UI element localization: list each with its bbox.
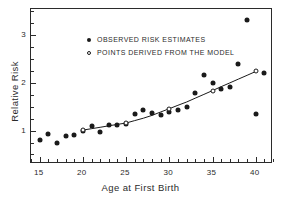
plot-area: OBSERVED RISK ESTIMATES POINTS DERIVED F…	[30, 8, 272, 163]
data-point-model	[80, 128, 85, 133]
data-point-observed	[46, 132, 51, 137]
x-tick-minor	[161, 159, 162, 162]
x-tick-minor	[135, 159, 136, 162]
y-tick-minor	[31, 154, 34, 155]
data-point-model	[253, 69, 258, 74]
model-fit-curve-path	[83, 72, 256, 131]
x-tick-minor	[109, 159, 110, 162]
x-tick-label: 40	[250, 168, 260, 177]
data-point-observed	[245, 17, 250, 22]
x-tick-major	[213, 157, 214, 162]
data-point-observed	[98, 130, 103, 135]
x-tick-minor	[221, 159, 222, 162]
data-point-observed	[141, 107, 146, 112]
x-tick-minor	[100, 159, 101, 162]
x-tick-label: 30	[164, 168, 174, 177]
x-tick-minor	[48, 159, 49, 162]
data-point-observed	[63, 133, 68, 138]
data-point-observed	[236, 61, 241, 66]
y-tick-minor	[31, 71, 34, 72]
x-tick-minor	[230, 159, 231, 162]
data-point-observed	[89, 124, 94, 129]
y-tick-major	[31, 35, 36, 36]
x-axis-title: Age at First Birth	[0, 182, 281, 193]
x-tick-minor	[273, 159, 274, 162]
data-point-model	[210, 88, 215, 93]
x-tick-minor	[66, 159, 67, 162]
y-axis-title: Relative Risk	[9, 52, 20, 132]
x-tick-minor	[247, 159, 248, 162]
x-tick-minor	[195, 159, 196, 162]
legend-item-observed: OBSERVED RISK ESTIMATES	[87, 34, 234, 45]
data-point-observed	[158, 112, 163, 117]
y-tick-major	[31, 131, 36, 132]
x-tick-minor	[152, 159, 153, 162]
y-tick-minor	[31, 107, 34, 108]
x-tick-major	[126, 157, 127, 162]
data-point-observed	[253, 112, 258, 117]
x-tick-minor	[187, 159, 188, 162]
y-tick-minor	[31, 11, 34, 12]
y-tick-minor	[31, 95, 34, 96]
data-point-observed	[72, 133, 77, 138]
y-tick-major	[31, 83, 36, 84]
x-tick-label: 20	[77, 168, 87, 177]
x-tick-major	[169, 157, 170, 162]
x-tick-minor	[178, 159, 179, 162]
legend-label-observed: OBSERVED RISK ESTIMATES	[97, 36, 206, 43]
data-point-model	[124, 120, 129, 125]
y-tick-minor	[31, 119, 34, 120]
legend-label-model: POINTS DERIVED FROM THE MODEL	[97, 49, 234, 56]
y-tick-minor	[31, 59, 34, 60]
data-point-model	[167, 106, 172, 111]
x-tick-minor	[74, 159, 75, 162]
legend: OBSERVED RISK ESTIMATES POINTS DERIVED F…	[87, 34, 234, 60]
open-circle-icon	[87, 51, 97, 55]
y-tick-label: 3	[14, 30, 26, 39]
x-tick-minor	[204, 159, 205, 162]
data-point-observed	[184, 104, 189, 109]
data-point-observed	[37, 138, 42, 143]
x-tick-major	[83, 157, 84, 162]
x-tick-major	[40, 157, 41, 162]
data-point-observed	[227, 85, 232, 90]
x-tick-minor	[143, 159, 144, 162]
data-point-observed	[210, 80, 215, 85]
data-point-observed	[201, 73, 206, 78]
x-tick-label: 25	[120, 168, 130, 177]
x-tick-label: 15	[34, 168, 44, 177]
y-tick-minor	[31, 143, 34, 144]
data-point-observed	[132, 112, 137, 117]
x-tick-minor	[264, 159, 265, 162]
data-point-observed	[262, 71, 267, 76]
x-tick-minor	[92, 159, 93, 162]
x-tick-major	[256, 157, 257, 162]
y-tick-minor	[31, 23, 34, 24]
data-point-observed	[150, 111, 155, 116]
data-point-observed	[219, 87, 224, 92]
data-point-observed	[193, 90, 198, 95]
data-point-observed	[175, 108, 180, 113]
x-tick-minor	[117, 159, 118, 162]
filled-circle-icon	[87, 38, 97, 42]
figure: OBSERVED RISK ESTIMATES POINTS DERIVED F…	[0, 0, 281, 202]
x-tick-minor	[57, 159, 58, 162]
x-tick-minor	[238, 159, 239, 162]
legend-item-model: POINTS DERIVED FROM THE MODEL	[87, 47, 234, 58]
model-fit-curve	[31, 9, 273, 164]
x-tick-minor	[31, 159, 32, 162]
x-tick-label: 35	[207, 168, 217, 177]
data-point-observed	[54, 140, 59, 145]
data-point-observed	[106, 122, 111, 127]
data-point-observed	[115, 123, 120, 128]
y-tick-minor	[31, 47, 34, 48]
